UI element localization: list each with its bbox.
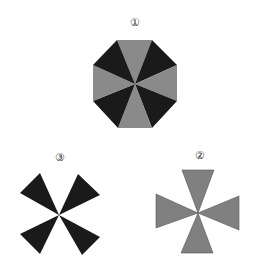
figure-3-dark-x: ③ bbox=[20, 151, 100, 255]
grey-triangle-top bbox=[182, 170, 214, 213]
figure-1-octagon: ① bbox=[93, 16, 177, 128]
figure-2-grey-plus: ② bbox=[156, 149, 239, 253]
grey-triangle-bottom bbox=[181, 213, 213, 253]
dark-triangle-upper-left bbox=[20, 173, 59, 215]
dark-triangle-lower-right bbox=[59, 215, 100, 255]
grey-triangle-left bbox=[156, 194, 198, 228]
dark-triangle-upper-right bbox=[59, 174, 100, 215]
diagram-canvas: ① ③ ② bbox=[0, 0, 253, 279]
figure-2-label: ② bbox=[195, 149, 205, 162]
dark-triangle-lower-left bbox=[20, 215, 59, 254]
figure-3-label: ③ bbox=[55, 151, 65, 164]
grey-triangle-right bbox=[198, 196, 239, 230]
figure-1-label: ① bbox=[130, 16, 140, 29]
